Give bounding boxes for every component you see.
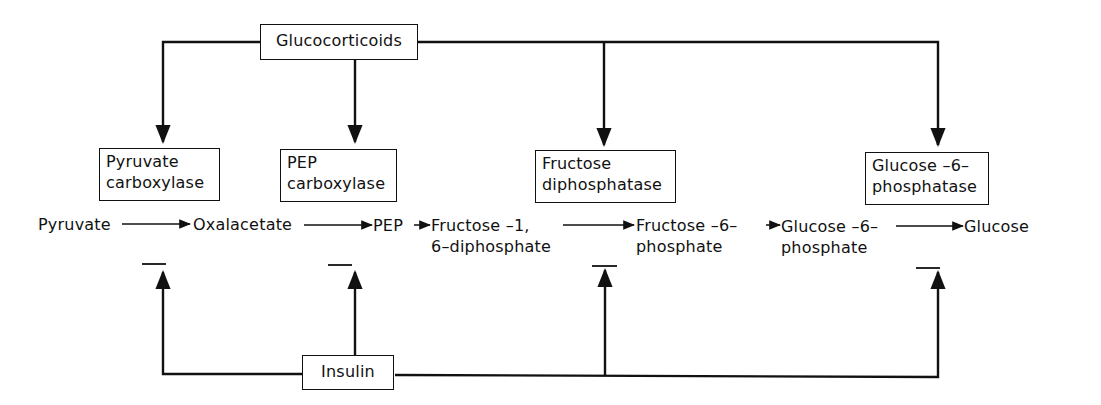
insulin-arrow-glucose-6-phosphatase [395,272,938,377]
metabolite-label: Pyruvate [38,214,111,235]
enzyme-label-line2: carboxylase [106,172,213,193]
enzyme-label-line2: phosphatase [872,176,982,197]
metabolite-glucose: Glucose [964,216,1029,237]
insulin-arrow-pyruvate-carboxylase [163,272,302,374]
metabolite-label-line2: 6–diphosphate [431,236,551,257]
glucocorticoids-box: Glucocorticoids [260,24,418,60]
metabolite-label-line1: Glucose –6– [781,216,878,237]
enzyme-label-line1: Pyruvate [106,151,213,172]
enzyme-label-line1: Glucose –6– [872,155,982,176]
metabolite-label: Glucose [964,216,1029,237]
enzyme-pyruvate-carboxylase: Pyruvate carboxylase [99,148,220,201]
enzyme-pep-carboxylase: PEP carboxylase [280,149,397,202]
metabolite-label: PEP [373,215,403,236]
metabolite-oxalacetate: Oxalacetate [193,214,292,235]
glucocorticoids-label: Glucocorticoids [276,31,402,50]
enzyme-fructose-diphosphatase: Fructose diphosphatase [535,150,676,203]
metabolite-label-line1: Fructose –6– [636,215,737,236]
metabolite-label-line2: phosphate [781,237,878,258]
glucocorticoid-arrow-pyruvate-carboxylase [163,42,260,142]
enzyme-label-line1: Fructose [542,153,669,174]
insulin-label: Insulin [321,362,375,381]
enzyme-label-line1: PEP [287,152,390,173]
metabolite-label-line2: phosphate [636,236,737,257]
enzyme-label-line2: carboxylase [287,173,390,194]
glucocorticoid-bus-right [418,42,938,145]
enzyme-label-line2: diphosphatase [542,174,669,195]
metabolite-label: Oxalacetate [193,214,292,235]
metabolite-pyruvate: Pyruvate [38,214,111,235]
enzyme-glucose-6-phosphatase: Glucose –6– phosphatase [865,152,989,205]
metabolite-label-line1: Fructose –1, [431,215,551,236]
metabolite-fructose-1-6-diphosphate: Fructose –1, 6–diphosphate [431,215,551,257]
metabolite-fructose-6-phosphate: Fructose –6– phosphate [636,215,737,257]
metabolite-glucose-6-phosphate: Glucose –6– phosphate [781,216,878,258]
insulin-box: Insulin [302,355,394,390]
metabolite-pep: PEP [373,215,403,236]
